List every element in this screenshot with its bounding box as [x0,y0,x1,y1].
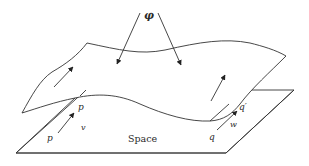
vector-w-label: w [230,120,237,129]
space-label: Space [128,133,158,144]
point-p-plane-label: p [47,133,53,143]
point-p-surface-label: p [78,102,84,112]
vector-v-arrow [58,113,74,133]
point-q-prime-label: q′ [239,102,247,112]
manifold-diagram: φ Space p p v q q′ w [0,0,309,166]
phi-label: φ [144,9,154,22]
point-q-label: q [209,132,215,142]
vector-v-label: v [81,123,86,132]
